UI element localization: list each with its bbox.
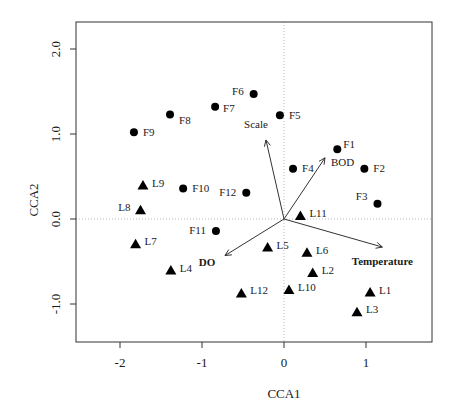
vector-label-scale: Scale <box>244 118 268 130</box>
point-label-f9: F9 <box>143 126 155 138</box>
point-label-f7: F7 <box>223 102 235 114</box>
point-label-l9: L9 <box>152 177 165 189</box>
point-label-l12: L12 <box>250 284 268 296</box>
vector-label-bod: BOD <box>331 156 354 168</box>
point-label-f2: F2 <box>373 162 385 174</box>
point-label-f6: F6 <box>232 85 244 97</box>
point-label-f12: F12 <box>219 186 236 198</box>
point-label-f5: F5 <box>289 109 301 121</box>
vector-label-do: DO <box>199 256 216 268</box>
x-tick-label: -1 <box>197 355 208 370</box>
circle-marker-f12 <box>242 189 250 197</box>
vector-label-temperature: Temperature <box>352 255 413 267</box>
circle-marker-f2 <box>360 165 368 173</box>
point-label-l7: L7 <box>145 235 158 247</box>
point-label-l8: L8 <box>118 201 131 213</box>
point-label-f10: F10 <box>192 182 210 194</box>
point-label-l2: L2 <box>322 264 334 276</box>
point-label-l11: L11 <box>309 207 326 219</box>
cca-biplot: -2-101 -1.00.01.02.0 ScaleBODDOTemperatu… <box>0 0 452 420</box>
circle-marker-f1 <box>333 145 341 153</box>
point-label-f1: F1 <box>343 138 355 150</box>
circle-marker-f6 <box>250 90 258 98</box>
circle-marker-f10 <box>179 184 187 192</box>
point-label-f3: F3 <box>356 190 368 202</box>
x-tick-label: 1 <box>363 355 370 370</box>
circle-marker-f4 <box>289 165 297 173</box>
x-tick-label: -2 <box>115 355 126 370</box>
x-tick-label: 0 <box>281 355 288 370</box>
circle-marker-f11 <box>212 227 220 235</box>
point-label-f4: F4 <box>302 162 314 174</box>
circle-marker-f9 <box>130 128 138 136</box>
y-tick-label: 0.0 <box>48 211 63 227</box>
circle-marker-f3 <box>373 200 381 208</box>
y-axis-title: CCA2 <box>26 183 41 216</box>
circle-marker-f5 <box>276 111 284 119</box>
point-label-f8: F8 <box>179 114 191 126</box>
point-label-l10: L10 <box>298 281 316 293</box>
y-tick-label: -1.0 <box>48 294 63 315</box>
y-tick-label: 2.0 <box>48 41 63 57</box>
point-label-l4: L4 <box>180 262 193 274</box>
point-label-f11: F11 <box>189 224 206 236</box>
circle-marker-f7 <box>211 103 219 111</box>
y-tick-label: 1.0 <box>48 126 63 142</box>
point-label-l5: L5 <box>277 239 290 251</box>
circle-marker-f8 <box>166 110 174 118</box>
x-axis-title: CCA1 <box>267 386 300 401</box>
point-label-l3: L3 <box>366 303 379 315</box>
point-label-l6: L6 <box>316 244 329 256</box>
background <box>0 0 452 420</box>
point-label-l1: L1 <box>379 284 391 296</box>
